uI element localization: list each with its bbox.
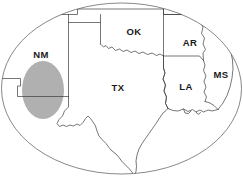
state-label-texas: TX [112,82,125,93]
state-label-louisiana: LA [179,81,192,92]
regional-state-map: NM TX OK AR LA MS [0,0,243,179]
permian-basin-highlight [22,61,64,119]
state-label-arkansas: AR [183,37,198,48]
state-label-new-mexico: NM [33,49,49,60]
state-label-mississippi: MS [213,69,228,80]
state-label-oklahoma: OK [126,26,141,37]
map-canvas: NM TX OK AR LA MS [0,0,243,179]
